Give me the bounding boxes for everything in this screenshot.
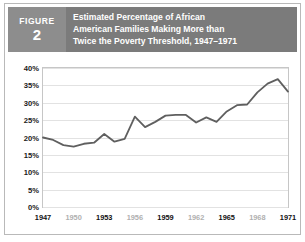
figure-number-badge: FIGURE 2 [8,7,66,52]
x-axis-tick-label: 1968 [249,213,265,222]
x-axis-tick-label: 1947 [35,213,51,222]
y-axis-tick-label: 15% [24,150,39,159]
x-axis-tick-label: 1956 [127,213,143,222]
x-axis-tick-label: 1962 [188,213,204,222]
figure-title-line-2: American Families Making More than [73,23,297,35]
figure-badge-number: 2 [33,27,41,42]
y-axis-tick-label: 0% [28,203,39,212]
data-line-path [43,79,288,146]
figure-badge-word: FIGURE [19,17,55,26]
x-axis-tick-label: 1950 [65,213,81,222]
y-axis-tick-label: 25% [24,116,39,125]
y-axis-tick-label: 40% [24,64,39,73]
figure-container: FIGURE 2 Estimated Percentage of African… [4,3,301,235]
chart-area: 0%5%10%15%20%25%30%35%40% 19471950195319… [8,55,297,231]
plot-area: 0%5%10%15%20%25%30%35%40% 19471950195319… [42,67,289,208]
y-axis-tick-label: 5% [28,185,39,194]
y-axis-tick-label: 30% [24,98,39,107]
y-axis-tick-label: 35% [24,81,39,90]
gridline [43,207,288,208]
figure-header: FIGURE 2 Estimated Percentage of African… [8,7,297,52]
y-axis-tick-label: 10% [24,168,39,177]
x-axis-tick-label: 1965 [219,213,235,222]
x-axis-tick-label: 1959 [157,213,173,222]
x-axis-tick-label: 1971 [280,213,296,222]
figure-title-line-3: Twice the Poverty Threshold, 1947–1971 [73,35,297,47]
x-axis-tick-label: 1953 [96,213,112,222]
y-axis-tick-label: 20% [24,133,39,142]
line-series [43,68,288,207]
figure-title-line-1: Estimated Percentage of African [73,11,297,23]
figure-title: Estimated Percentage of African American… [66,7,297,52]
